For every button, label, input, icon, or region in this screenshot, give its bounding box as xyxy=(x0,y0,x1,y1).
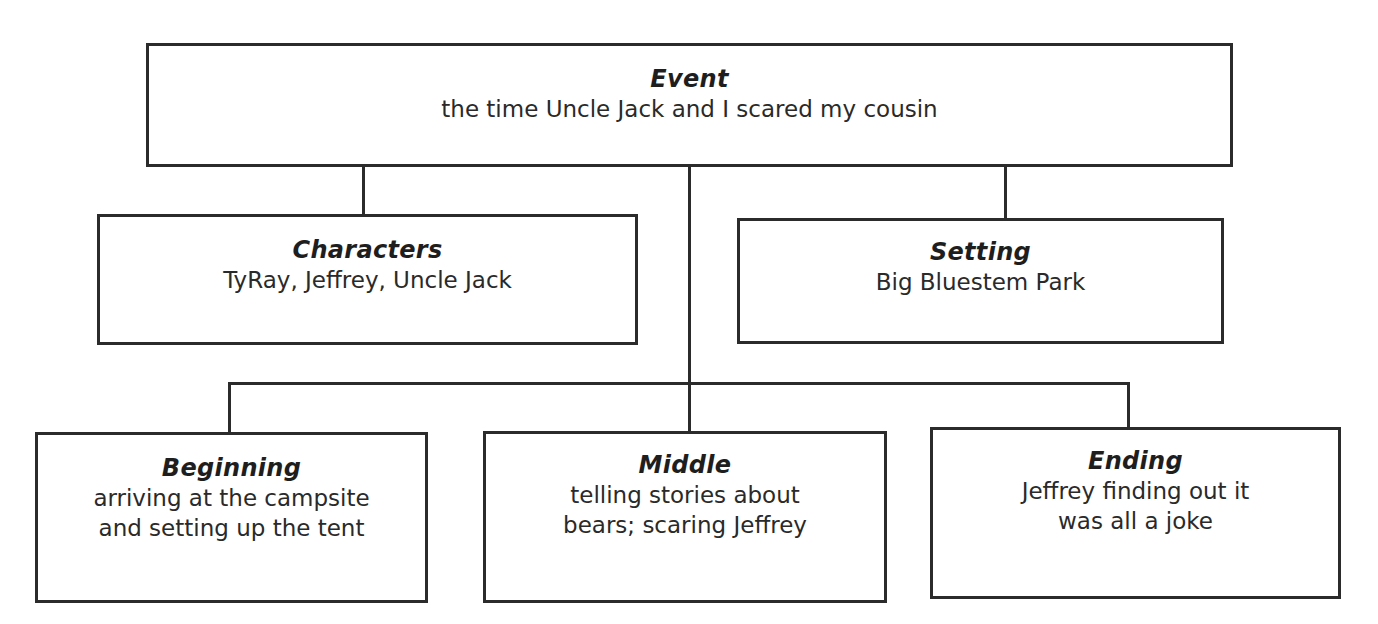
connector-trunk xyxy=(688,166,691,432)
beginning-title: Beginning xyxy=(38,453,425,483)
setting-text: Big Bluestem Park xyxy=(740,267,1221,297)
beginning-line-2: and setting up the tent xyxy=(38,513,425,543)
middle-title: Middle xyxy=(486,450,884,480)
characters-box: Characters TyRay, Jeffrey, Uncle Jack xyxy=(97,214,638,345)
characters-text: TyRay, Jeffrey, Uncle Jack xyxy=(100,265,635,295)
middle-line-1: telling stories about xyxy=(486,480,884,510)
characters-title: Characters xyxy=(100,235,635,265)
ending-line-1: Jeffrey finding out it xyxy=(933,476,1338,506)
setting-box: Setting Big Bluestem Park xyxy=(737,218,1224,344)
ending-title: Ending xyxy=(933,446,1338,476)
connector-event-setting xyxy=(1004,166,1007,219)
beginning-line-1: arriving at the campsite xyxy=(38,483,425,513)
setting-title: Setting xyxy=(740,237,1221,267)
connector-horizontal-bar xyxy=(228,382,1130,385)
middle-line-2: bears; scaring Jeffrey xyxy=(486,510,884,540)
event-title: Event xyxy=(149,64,1230,94)
connector-event-characters xyxy=(362,166,365,215)
connector-ending xyxy=(1127,382,1130,428)
ending-line-2: was all a joke xyxy=(933,506,1338,536)
beginning-box: Beginning arriving at the campsite and s… xyxy=(35,432,428,603)
event-text: the time Uncle Jack and I scared my cous… xyxy=(149,94,1230,124)
connector-beginning xyxy=(228,382,231,433)
middle-box: Middle telling stories about bears; scar… xyxy=(483,431,887,603)
event-box: Event the time Uncle Jack and I scared m… xyxy=(146,43,1233,167)
ending-box: Ending Jeffrey finding out it was all a … xyxy=(930,427,1341,599)
